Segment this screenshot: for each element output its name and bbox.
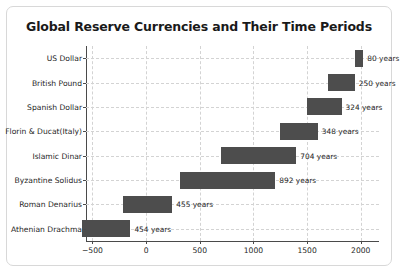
y-axis-tick (83, 204, 86, 205)
y-axis-tick (83, 180, 86, 181)
bar (307, 98, 342, 115)
x-axis-tick (146, 241, 147, 244)
x-axis-tick-label: 0 (144, 246, 149, 255)
bar-value-label: 455 years (176, 200, 213, 209)
x-axis-tick-label: 2000 (351, 246, 370, 255)
y-gridline (86, 58, 379, 59)
x-gridline (200, 46, 201, 241)
y-axis-label: Athenian Drachma (11, 224, 82, 233)
bar-value-label: 250 years (359, 78, 396, 87)
plot-area: 80 years250 years324 years348 years704 y… (86, 46, 379, 241)
y-axis-label: US Dollar (47, 54, 82, 63)
y-axis-label: Byzantine Solidus (15, 176, 82, 185)
y-axis-label: British Pound (32, 78, 82, 87)
bar (82, 220, 131, 237)
y-axis-tick (83, 229, 86, 230)
x-gridline (361, 46, 362, 241)
y-axis-label: Islamic Dinar (32, 151, 82, 160)
bar (221, 147, 297, 164)
bar (180, 172, 276, 189)
y-axis-label: Roman Denarius (19, 200, 82, 209)
x-gridline (92, 46, 93, 241)
x-axis-tick (361, 241, 362, 244)
chart-screenshot: Global Reserve Currencies and Their Time… (0, 0, 400, 274)
bar-value-label: 80 years (367, 54, 399, 63)
y-axis-label: Spanish Dollar (27, 102, 82, 111)
bar-value-label: 348 years (322, 127, 359, 136)
x-gridline (307, 46, 308, 241)
bar-value-label: 324 years (346, 102, 383, 111)
x-axis-tick (200, 241, 201, 244)
y-axis-tick (83, 83, 86, 84)
y-axis-tick (83, 107, 86, 108)
x-axis-tick (253, 241, 254, 244)
x-axis-tick-label: 1000 (244, 246, 263, 255)
x-axis-tick (307, 241, 308, 244)
y-axis-tick (83, 131, 86, 132)
x-gridline (253, 46, 254, 241)
chart-title: Global Reserve Currencies and Their Time… (7, 19, 391, 34)
bar (355, 50, 364, 67)
x-axis-tick-label: 1500 (297, 246, 316, 255)
bar (123, 196, 172, 213)
bar (280, 123, 317, 140)
bar (328, 74, 355, 91)
y-axis-labels: US DollarBritish PoundSpanish DollarFlor… (0, 46, 82, 241)
y-axis-tick (83, 156, 86, 157)
x-axis-tick (92, 241, 93, 244)
x-axis-tick-label: −500 (82, 246, 103, 255)
bar-value-label: 454 years (134, 224, 171, 233)
x-axis-tick-label: 500 (193, 246, 208, 255)
y-axis-tick (83, 58, 86, 59)
bar-value-label: 892 years (279, 176, 316, 185)
x-axis-line (86, 241, 379, 242)
bar-value-label: 704 years (300, 151, 337, 160)
y-axis-label: Florin & Ducat(Italy) (5, 127, 82, 136)
